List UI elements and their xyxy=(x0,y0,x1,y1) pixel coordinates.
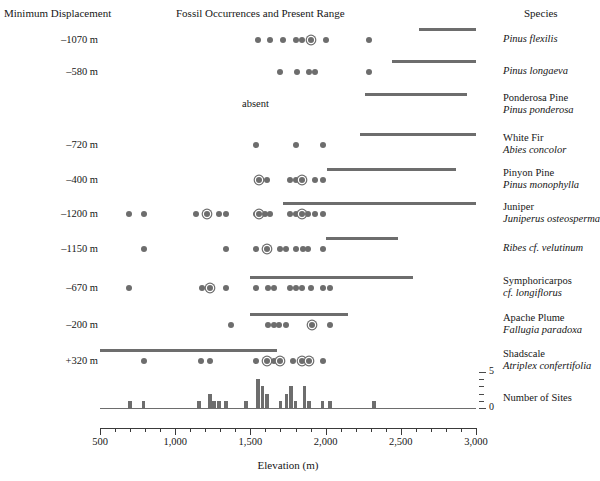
x-axis-minor-tick xyxy=(371,428,372,432)
fossil-occurrence-dot xyxy=(299,285,305,291)
site-count-histogram xyxy=(100,372,476,408)
present-range-bar xyxy=(100,349,277,352)
histogram-tick xyxy=(479,401,484,402)
fossil-occurrence-dot xyxy=(228,322,234,328)
fossil-occurrence-dot xyxy=(207,358,213,364)
x-axis-minor-tick xyxy=(461,428,462,432)
species-common-name: Pinyon Pine xyxy=(503,167,579,179)
fossil-occurrence-dot-circled xyxy=(204,211,210,217)
x-axis-minor-tick xyxy=(160,428,161,432)
present-range-bar xyxy=(360,133,476,136)
fossil-occurrence-dot-circled xyxy=(309,322,315,328)
species-name: Pinyon PinePinus monophylla xyxy=(503,167,579,191)
fossil-occurrence-dot xyxy=(223,211,229,217)
absent-label: absent xyxy=(242,98,269,109)
fossil-occurrence-dot-circled xyxy=(256,177,262,183)
fossil-occurrence-dot xyxy=(305,246,311,252)
x-axis-major-tick xyxy=(250,428,251,435)
histogram-tick xyxy=(479,379,484,380)
displacement-label: –400 m xyxy=(8,174,98,185)
x-axis-minor-tick xyxy=(386,428,387,432)
displacement-label: –580 m xyxy=(8,66,98,77)
fossil-occurrence-dot-circled xyxy=(308,37,314,43)
fossil-occurrence-dot xyxy=(253,358,259,364)
histogram-tick-label: 5 xyxy=(489,365,494,376)
histogram-bar xyxy=(208,394,212,408)
histogram-bar xyxy=(261,386,265,408)
histogram-bar xyxy=(289,386,293,408)
histogram-bar xyxy=(128,401,132,408)
histogram-bar xyxy=(372,401,376,408)
fossil-occurrence-dot xyxy=(308,285,314,291)
fossil-occurrence-dot-circled xyxy=(207,285,213,291)
displacement-label: +320 m xyxy=(8,355,98,366)
x-axis-major-tick xyxy=(175,428,176,435)
fossil-occurrence-dot xyxy=(287,211,293,217)
displacement-label: –720 m xyxy=(8,139,98,150)
x-axis-minor-tick xyxy=(416,428,417,432)
x-axis-tick-label: 3,000 xyxy=(464,436,488,447)
x-axis-minor-tick xyxy=(145,428,146,432)
fossil-occurrence-dot xyxy=(366,37,372,43)
histogram-bar xyxy=(256,379,260,408)
fossil-occurrence-dot xyxy=(271,285,277,291)
fossil-occurrence-dot xyxy=(320,358,326,364)
x-axis-minor-tick xyxy=(115,428,116,432)
histogram-bar xyxy=(285,394,289,408)
fossil-occurrence-dot xyxy=(312,211,318,217)
present-range-bar xyxy=(327,168,456,171)
species-common-name: Apache Plume xyxy=(503,312,582,324)
x-axis-minor-tick xyxy=(280,428,281,432)
x-axis-major-tick xyxy=(476,428,477,435)
species-common-name: Shadscale xyxy=(503,348,591,360)
fossil-occurrence-dot xyxy=(283,246,289,252)
fossil-occurrence-dot xyxy=(198,358,204,364)
fossil-occurrence-dot xyxy=(280,37,286,43)
x-axis-title: Elevation (m) xyxy=(0,459,576,471)
x-axis-line xyxy=(100,428,476,429)
histogram-baseline xyxy=(100,408,476,409)
species-name: Pinus longaeva xyxy=(503,65,568,77)
histogram-bar xyxy=(294,401,298,408)
displacement-label: –1070 m xyxy=(8,34,98,45)
present-range-bar xyxy=(326,237,398,240)
x-axis-tick-label: 2,500 xyxy=(389,436,413,447)
species-name: White FirAbies concolor xyxy=(503,132,566,156)
fossil-occurrence-dot xyxy=(305,211,311,217)
species-name: Apache PlumeFallugia paradoxa xyxy=(503,312,582,336)
fossil-occurrence-dot xyxy=(126,211,132,217)
fossil-occurrence-dot xyxy=(277,69,283,75)
x-axis-minor-tick xyxy=(356,428,357,432)
present-range-bar xyxy=(250,276,412,279)
fossil-occurrence-dot xyxy=(253,142,259,148)
species-latin-name: Atriplex confertifolia xyxy=(503,360,591,372)
fossil-occurrence-dot xyxy=(320,211,326,217)
fossil-occurrence-dot xyxy=(293,246,299,252)
fossil-occurrence-dot xyxy=(320,285,326,291)
fossil-occurrence-dot xyxy=(290,358,296,364)
fossil-occurrence-dot xyxy=(294,69,300,75)
x-axis-minor-tick xyxy=(341,428,342,432)
species-name: ShadscaleAtriplex confertifolia xyxy=(503,348,591,372)
x-axis-tick-label: 500 xyxy=(92,436,108,447)
fossil-occurrence-dot xyxy=(264,177,270,183)
displacement-label: –670 m xyxy=(8,282,98,293)
histogram-bar xyxy=(217,401,221,408)
fossil-occurrence-dot xyxy=(312,177,318,183)
x-axis-minor-tick xyxy=(220,428,221,432)
species-latin-name: Juniperus osteosperma xyxy=(503,213,600,225)
species-name: Ribes cf. velutinum xyxy=(503,242,583,254)
fossil-occurrence-dot xyxy=(320,142,326,148)
species-common-name: Juniper xyxy=(503,201,600,213)
fossil-occurrence-dot-circled xyxy=(299,177,305,183)
fossil-occurrence-dot-circled xyxy=(299,211,305,217)
histogram-bar xyxy=(279,401,283,408)
x-axis-minor-tick xyxy=(431,428,432,432)
fossil-occurrence-dot xyxy=(193,211,199,217)
fossil-occurrence-dot xyxy=(327,285,333,291)
present-range-bar xyxy=(365,93,467,96)
present-range-bar xyxy=(392,60,476,63)
histogram-bar xyxy=(244,401,248,408)
species-name: Symphoricarposcf. longiflorus xyxy=(503,275,572,299)
histogram-tick xyxy=(479,394,484,395)
